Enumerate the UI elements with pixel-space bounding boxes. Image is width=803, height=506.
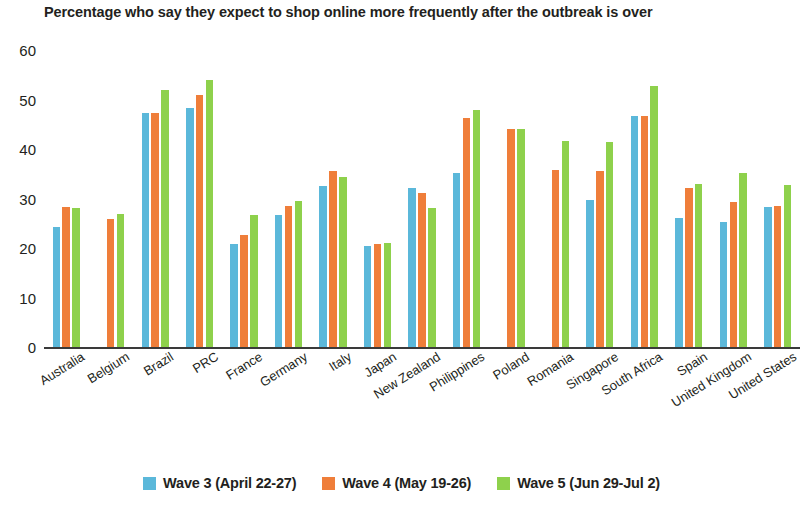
bar (784, 185, 792, 347)
y-axis-tick-60: 60 (19, 43, 36, 58)
x-axis-label: Belgium (84, 349, 131, 386)
bar-group (711, 50, 755, 347)
bar (107, 219, 115, 347)
bar (463, 118, 471, 347)
bar (186, 108, 194, 347)
bar-group (489, 50, 533, 347)
bar-group (756, 50, 800, 347)
bar (240, 235, 248, 347)
bar-group (444, 50, 488, 347)
bar (685, 188, 693, 347)
bar (650, 86, 658, 347)
bar (517, 129, 525, 347)
x-axis-label: Australia (37, 349, 87, 388)
x-axis-label: PRC (190, 349, 221, 376)
bar (507, 129, 515, 347)
chart-legend: Wave 3 (April 22-27)Wave 4 (May 19-26)Wa… (0, 468, 803, 498)
legend-swatch-icon (143, 477, 156, 490)
bar (319, 186, 327, 347)
bar (161, 90, 169, 347)
chart-container: Percentage who say they expect to shop o… (0, 0, 803, 506)
bar-group (222, 50, 266, 347)
bar (142, 113, 150, 347)
legend-swatch-icon (322, 477, 335, 490)
bar (72, 208, 80, 347)
bar (117, 214, 125, 347)
bar (631, 116, 639, 347)
bar (675, 218, 683, 347)
y-axis-tick-30: 30 (19, 191, 36, 206)
bar (230, 244, 238, 347)
y-axis-tick-0: 0 (28, 340, 36, 355)
bar (62, 207, 70, 347)
bar-group (44, 50, 88, 347)
bar (764, 207, 772, 347)
legend-label: Wave 3 (April 22-27) (163, 475, 296, 491)
y-axis-tick-40: 40 (19, 142, 36, 157)
bar-group (667, 50, 711, 347)
legend-item[interactable]: Wave 3 (April 22-27) (143, 475, 296, 491)
bar-group (133, 50, 177, 347)
bar (552, 170, 560, 347)
bar-group (533, 50, 577, 347)
plot-area-bars (44, 50, 800, 347)
bar (641, 116, 649, 347)
y-axis-tick-50: 50 (19, 92, 36, 107)
bar (196, 95, 204, 347)
bar-group (355, 50, 399, 347)
bar (339, 177, 347, 347)
bar (206, 80, 214, 347)
bar (739, 173, 747, 347)
bar (596, 171, 604, 347)
bar (606, 142, 614, 347)
bar (586, 200, 594, 347)
legend-swatch-icon (497, 477, 510, 490)
bar (453, 173, 461, 347)
x-axis-labels: AustraliaBelgiumBrazilPRCFranceGermanyIt… (44, 349, 800, 459)
chart-title: Percentage who say they expect to shop o… (44, 4, 784, 20)
bar (364, 246, 372, 347)
bar (408, 188, 416, 347)
bar (53, 227, 61, 347)
legend-item[interactable]: Wave 4 (May 19-26) (322, 475, 471, 491)
bar-group (578, 50, 622, 347)
bar-group (400, 50, 444, 347)
bar-group (88, 50, 132, 347)
bar-group (622, 50, 666, 347)
bar (720, 222, 728, 347)
bar-group (311, 50, 355, 347)
y-axis-tick-20: 20 (19, 241, 36, 256)
legend-label: Wave 4 (May 19-26) (342, 475, 471, 491)
x-axis-label: Italy (326, 349, 354, 374)
x-axis-label: Germany (257, 349, 310, 390)
y-axis: 0102030405060 (0, 38, 40, 360)
bar (384, 243, 392, 347)
y-axis-tick-10: 10 (19, 290, 36, 305)
bar (151, 113, 159, 347)
legend-label: Wave 5 (Jun 29-Jul 2) (517, 475, 660, 491)
bar-group (177, 50, 221, 347)
bar (275, 215, 283, 347)
bar (774, 206, 782, 347)
bar (428, 208, 436, 347)
bar (473, 110, 481, 347)
bar (695, 184, 703, 347)
bar (730, 202, 738, 347)
bar (250, 215, 258, 347)
x-axis-label: Brazil (141, 349, 176, 379)
bar (285, 206, 293, 347)
bar (374, 244, 382, 347)
legend-item[interactable]: Wave 5 (Jun 29-Jul 2) (497, 475, 660, 491)
bar-group (266, 50, 310, 347)
bar (329, 171, 337, 347)
bar (562, 141, 570, 347)
bar (295, 201, 303, 347)
bar (418, 193, 426, 347)
